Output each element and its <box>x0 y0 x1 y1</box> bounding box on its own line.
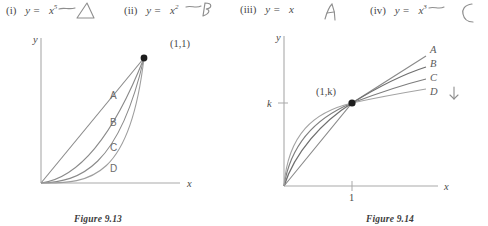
equation-iii-lhs: y = <box>259 3 280 15</box>
curve-label-a: A <box>429 44 437 55</box>
figure-9-14-plot: y x k 1 (1,k) A B C D <box>248 24 488 204</box>
equation-iv-exponent: 3 <box>423 3 427 11</box>
handwritten-annotation-c <box>428 1 484 25</box>
equation-ii-exponent: 2 <box>175 3 179 11</box>
point-1-k-marker <box>348 99 355 106</box>
x-tick-label-1: 1 <box>349 192 354 203</box>
curve-label-b: B <box>430 58 437 69</box>
point-label-1-1: (1,1) <box>170 38 191 50</box>
equation-iv-base: x <box>412 4 423 16</box>
x-axis-label: x <box>443 181 449 192</box>
curve-label-c: C <box>430 72 438 83</box>
curve-label-c: C <box>110 142 117 153</box>
handwritten-annotation-a <box>322 2 346 24</box>
equation-ii-number: (ii) <box>124 4 137 16</box>
x-axis-label: x <box>186 178 192 189</box>
equation-row: (i) y = x5 (ii) y = x2 (iii) y = x (iv) … <box>0 0 488 26</box>
equation-iv-lhs: y = <box>389 4 410 16</box>
figure-9-13: y x (1,1) A B C D Figure 9.13 <box>0 24 244 226</box>
equation-iii-base: x <box>283 3 294 15</box>
point-label-1-k: (1,k) <box>316 86 337 98</box>
equation-iv: (iv) y = x3 <box>370 3 427 16</box>
figure-9-14-caption: Figure 9.14 <box>270 214 488 224</box>
y-axis-label: y <box>275 32 281 43</box>
equation-iii: (iii) y = x <box>240 3 294 15</box>
equation-i: (i) y = x5 <box>6 3 57 16</box>
figure-9-13-plot: y x (1,1) A B C D <box>0 24 244 204</box>
equation-iii-number: (iii) <box>240 3 257 15</box>
curve-label-d: D <box>429 86 438 97</box>
figure-9-13-caption: Figure 9.13 <box>0 214 220 224</box>
handwritten-annotation-d <box>58 1 108 23</box>
figure-page: (i) y = x5 (ii) y = x2 (iii) y = x (iv) … <box>0 0 488 226</box>
equation-i-exponent: 5 <box>54 3 58 11</box>
curve-a <box>41 58 144 183</box>
point-1-1-marker <box>141 55 148 62</box>
equation-i-base: x <box>43 4 54 16</box>
equation-iv-number: (iv) <box>370 4 386 16</box>
curve-c <box>284 79 426 186</box>
y-axis-label: y <box>32 34 38 45</box>
figure-9-14: y x k 1 (1,k) A B C D Figure 9.14 <box>248 24 488 226</box>
equation-ii-base: x <box>164 4 175 16</box>
equation-ii: (ii) y = x2 <box>124 3 178 16</box>
equation-i-number: (i) <box>6 4 16 16</box>
equation-ii-lhs: y = <box>140 4 161 16</box>
y-tick-label-k: k <box>267 98 272 109</box>
curve-label-a: A <box>110 90 117 101</box>
handwritten-annotation-b <box>185 0 225 22</box>
equation-i-lhs: y = <box>19 4 40 16</box>
curve-label-d: D <box>110 163 117 174</box>
curve-label-b: B <box>110 117 117 128</box>
